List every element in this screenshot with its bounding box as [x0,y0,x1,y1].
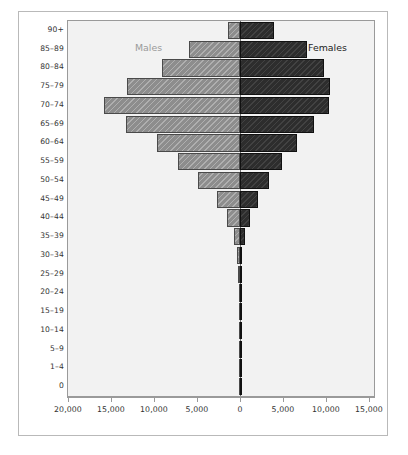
y-axis-label-7: 55–59 [12,156,64,165]
bar-female-5054 [240,172,269,189]
y-axis-label-2: 80–84 [12,62,64,71]
bar-female-7074 [240,97,329,114]
bar-male-5559 [178,153,240,170]
y-axis-label-19: 0 [12,381,64,390]
x-axis-tick-4 [240,397,241,402]
bar-male-7074 [104,97,240,114]
y-axis-label-0: 90+ [12,25,64,34]
x-axis-tick-7 [369,397,370,402]
y-axis-label-15: 15–19 [12,306,64,315]
y-axis-label-14: 20–24 [12,287,64,296]
y-axis-label-10: 40–44 [12,212,64,221]
x-axis-tick-label-7: 15,000 [339,405,399,414]
bar-female-8589 [240,41,307,58]
plot-panel: Males Females [67,20,375,397]
series-label-males: Males [135,42,162,53]
bar-female-14 [240,359,242,376]
population-pyramid-figure: 90+85–8980–8475–7970–7465–6960–6455–5950… [0,0,408,455]
bar-male-8084 [162,59,240,76]
x-axis-tick-2 [154,397,155,402]
bar-female-59 [240,341,242,358]
y-axis-label-4: 70–74 [12,100,64,109]
bar-female-5559 [240,153,282,170]
bar-female-6064 [240,134,297,151]
bar-female-7579 [240,78,330,95]
bar-female-8084 [240,59,324,76]
bar-female-4549 [240,191,258,208]
x-axis-tick-0 [68,397,69,402]
bar-female-90+ [240,22,274,39]
y-axis-label-17: 5–9 [12,344,64,353]
y-axis-label-12: 30–34 [12,250,64,259]
x-axis-line [67,397,375,398]
bar-male-5054 [198,172,240,189]
bar-male-90+ [228,22,240,39]
bar-male-7579 [127,78,240,95]
bar-male-4044 [227,209,240,226]
bar-male-6064 [157,134,240,151]
bar-female-1519 [240,303,242,320]
y-axis-label-18: 1–4 [12,362,64,371]
series-label-females: Females [308,42,347,53]
y-axis-label-8: 50–54 [12,175,64,184]
bar-female-2529 [240,266,242,283]
x-axis-tick-6 [326,397,327,402]
bar-female-6569 [240,116,314,133]
bar-male-4549 [217,191,240,208]
y-axis-label-9: 45–49 [12,194,64,203]
y-axis-label-11: 35–39 [12,231,64,240]
x-axis-tick-3 [197,397,198,402]
bar-female-3539 [240,228,245,245]
x-axis-tick-5 [283,397,284,402]
y-axis-label-16: 10–14 [12,325,64,334]
bar-female-4044 [240,209,250,226]
bar-male-8589 [189,41,240,58]
y-axis-label-5: 65–69 [12,119,64,128]
bar-male-6569 [126,116,240,133]
y-axis-category-labels: 90+85–8980–8475–7970–7465–6960–6455–5950… [8,20,64,397]
y-axis-label-6: 60–64 [12,137,64,146]
y-axis-label-13: 25–29 [12,269,64,278]
x-axis-tick-1 [111,397,112,402]
y-axis-label-1: 85–89 [12,44,64,53]
bar-female-0 [240,378,242,395]
y-axis-label-3: 75–79 [12,81,64,90]
plot-area: Males Females [68,21,374,396]
bar-female-3034 [240,247,242,264]
bar-female-1014 [240,322,242,339]
bar-female-2024 [240,284,242,301]
